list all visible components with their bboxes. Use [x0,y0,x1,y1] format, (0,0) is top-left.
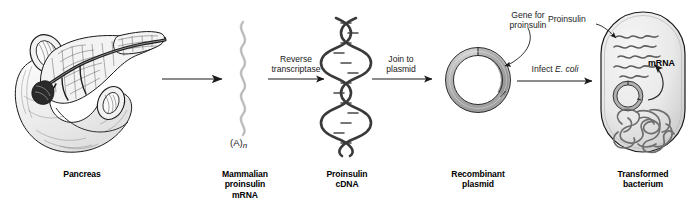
bacterium-cell [601,12,685,152]
arrow-label-line1: Join to [370,54,432,64]
arrow-label-infect-ecoli: Infect E. coli [518,64,592,74]
arrow-label-line1: Reverse [262,54,330,64]
caption-line1: Transformed [598,169,688,179]
recombinant-dna-diagram: Reverse transcriptase Join to plasmid In… [0,0,696,204]
gene-for-proinsulin-leader [505,28,530,66]
arrow-label-line2: plasmid [370,64,432,74]
poly-a-subscript: n [243,141,247,150]
arrow-label-join-to-plasmid: Join to plasmid [370,54,432,75]
pancreas-illustration [15,29,166,152]
caption-proinsulin-cdna: Proinsulin cDNA [312,169,382,190]
dna-double-helix [321,18,371,156]
callout-mrna: mRNA [648,58,692,69]
plasmid-ring [446,48,511,113]
poly-a-text: (A) [230,137,243,148]
arrow-label-reverse-transcriptase: Reverse transcriptase [262,54,330,75]
caption-line2: plasmid [434,179,522,189]
infect-prefix: Infect [532,64,555,74]
ecoli-species-name: E. coli [555,64,578,74]
caption-recombinant-plasmid: Recombinant plasmid [434,169,522,190]
caption-transformed-bacterium: Transformed bacterium [598,169,688,190]
caption-line2: bacterium [598,179,688,189]
poly-a-tail-label: (A)n [230,137,247,150]
mrna-strand [241,22,245,135]
caption-line1: Proinsulin [312,169,382,179]
caption-line3: mRNA [204,190,286,200]
arrow-label-line2: transcriptase [262,64,330,74]
caption-mammalian-proinsulin-mrna: Mammalian proinsulin mRNA [204,169,286,200]
callout-proinsulin: Proinsulin [548,14,600,24]
caption-line1: Recombinant [434,169,522,179]
caption-line2: proinsulin [204,179,286,189]
caption-pancreas: Pancreas [42,169,122,179]
caption-line1: Mammalian [204,169,286,179]
caption-line2: cDNA [312,179,382,189]
